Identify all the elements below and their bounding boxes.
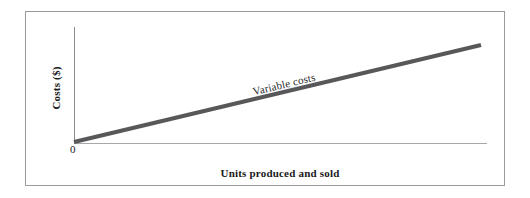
variable-costs-line [74,45,481,142]
y-axis-title: Costs ($) [50,66,62,109]
figure-container: Costs ($) 0 Units produced and sold Vari… [0,0,530,198]
origin-tick-label: 0 [70,144,76,155]
plot-area: Costs ($) 0 Units produced and sold Vari… [0,0,530,198]
x-axis-title: Units produced and sold [220,167,339,179]
